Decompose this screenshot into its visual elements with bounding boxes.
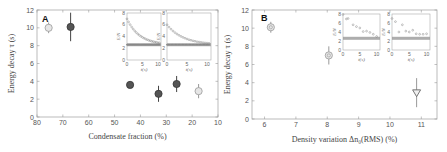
svg-text:4: 4: [338, 29, 341, 35]
svg-text:5: 5: [408, 51, 411, 57]
svg-text:t(s): t(s): [141, 67, 148, 72]
x-tick-label: 80: [33, 119, 41, 126]
svg-text:6: 6: [387, 20, 390, 26]
data-point-triangle: [413, 90, 421, 97]
svg-text:6: 6: [122, 21, 125, 27]
inset-plot: 024680510t(s)E/N: [116, 10, 161, 72]
y-tick-label: 10: [26, 24, 34, 31]
svg-text:0: 0: [166, 61, 169, 67]
y-tick-label: 8: [245, 43, 249, 50]
svg-text:0: 0: [126, 61, 129, 67]
svg-text:8: 8: [162, 10, 165, 16]
y-axis-label: Energy decay τ (s): [7, 34, 16, 94]
svg-text:6: 6: [162, 21, 165, 27]
y-tick-label: 12: [26, 7, 34, 14]
x-tick-label: 8: [325, 121, 329, 128]
y-tick-label: 12: [241, 7, 249, 14]
svg-text:6: 6: [338, 20, 341, 26]
svg-text:8: 8: [122, 10, 125, 16]
y-tick-label: 0: [245, 116, 249, 123]
figure: 0246810128070605040302010Condensate frac…: [0, 0, 447, 152]
x-axis-label: Condensate fraction (%): [88, 132, 167, 141]
svg-text:10: 10: [424, 51, 430, 57]
svg-text:5: 5: [358, 51, 361, 57]
y-tick-label: 4: [245, 79, 249, 86]
y-tick-label: 2: [245, 97, 249, 104]
svg-text:10: 10: [155, 61, 161, 67]
data-point: [67, 23, 74, 30]
panel-a: 0246810128070605040302010Condensate frac…: [7, 7, 222, 142]
x-tick-label: 50: [111, 119, 119, 126]
baseline-band: [343, 37, 380, 40]
inset-plot: 024680510t(s)E/N: [332, 11, 380, 62]
svg-text:10: 10: [374, 51, 380, 57]
y-axis-label: Energy decay τ (s): [223, 35, 232, 95]
y-tick-label: 8: [30, 42, 34, 49]
x-tick-label: 60: [85, 119, 93, 126]
y-tick-label: 4: [30, 78, 34, 85]
svg-text:4: 4: [387, 29, 390, 35]
data-point: [45, 24, 52, 31]
svg-text:E/N: E/N: [116, 32, 121, 41]
svg-text:5: 5: [141, 61, 144, 67]
inset-plot: 024680510t(s)E/N: [156, 10, 211, 72]
panel-label: A: [42, 14, 49, 24]
baseline-band: [392, 37, 430, 40]
svg-text:0: 0: [391, 51, 394, 57]
y-tick-label: 2: [30, 96, 34, 103]
x-tick-label: 30: [162, 119, 170, 126]
x-tick-label: 9: [357, 121, 361, 128]
svg-text:4: 4: [122, 33, 125, 39]
svg-text:2: 2: [387, 38, 390, 44]
svg-text:8: 8: [338, 11, 341, 17]
svg-text:0: 0: [342, 51, 345, 57]
data-point: [325, 52, 332, 59]
svg-text:2: 2: [162, 45, 165, 51]
x-tick-label: 70: [59, 119, 67, 126]
svg-text:t(s): t(s): [358, 57, 365, 62]
data-point: [155, 90, 162, 97]
y-tick-label: 6: [245, 61, 249, 68]
x-tick-label: 20: [188, 119, 196, 126]
panel-label: B: [261, 13, 268, 23]
svg-text:5: 5: [186, 61, 189, 67]
x-tick-label: 10: [214, 119, 222, 126]
panel-b: 02468101267891011Density variation Δn₀(R…: [223, 7, 437, 145]
x-tick-label: 10: [386, 121, 394, 128]
svg-text:10: 10: [204, 61, 210, 67]
inset-plot: 024680510t(s)E/N: [381, 11, 430, 62]
y-tick-label: 10: [241, 25, 249, 32]
data-point: [173, 80, 180, 87]
svg-text:t(s): t(s): [408, 57, 415, 62]
data-point: [195, 88, 202, 95]
y-tick-label: 6: [30, 60, 34, 67]
x-tick-label: 7: [294, 121, 298, 128]
x-axis-label: Density variation Δn₀(RMS) (%): [292, 135, 398, 144]
svg-text:t(s): t(s): [186, 67, 193, 72]
x-tick-label: 11: [418, 121, 425, 128]
svg-text:4: 4: [162, 33, 165, 39]
svg-text:2: 2: [122, 45, 125, 51]
data-point: [126, 81, 133, 88]
svg-text:2: 2: [338, 38, 341, 44]
svg-text:8: 8: [387, 11, 390, 17]
svg-text:E/N: E/N: [156, 32, 161, 41]
data-point: [267, 24, 274, 31]
svg-text:E/N: E/N: [381, 27, 386, 36]
svg-text:E/N: E/N: [332, 27, 337, 36]
x-tick-label: 6: [263, 121, 267, 128]
x-tick-label: 40: [137, 119, 145, 126]
